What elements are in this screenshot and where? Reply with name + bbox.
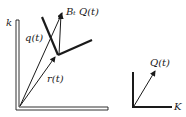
- Q-vector-label: Q(t): [150, 57, 170, 68]
- k-axis-label: k: [6, 17, 12, 28]
- bq-vector-label: Bₜ Q(t): [65, 6, 99, 17]
- r-vector-label: r(t): [47, 73, 64, 84]
- q-vector-label: q(t): [25, 32, 43, 43]
- left-frame: k q(t) r(t) Bₜ Q(t): [6, 6, 108, 110]
- vector-q: [20, 13, 62, 106]
- left-vectors: [20, 13, 62, 106]
- right-frame: Q(t) K: [132, 57, 182, 112]
- diagram-canvas: k q(t) r(t) Bₜ Q(t) Q(t) K: [0, 0, 186, 117]
- tangent-lines: [42, 17, 92, 55]
- K-axis-label: K: [173, 101, 182, 112]
- vector-Q: [134, 71, 155, 106]
- right-axes: [132, 72, 172, 108]
